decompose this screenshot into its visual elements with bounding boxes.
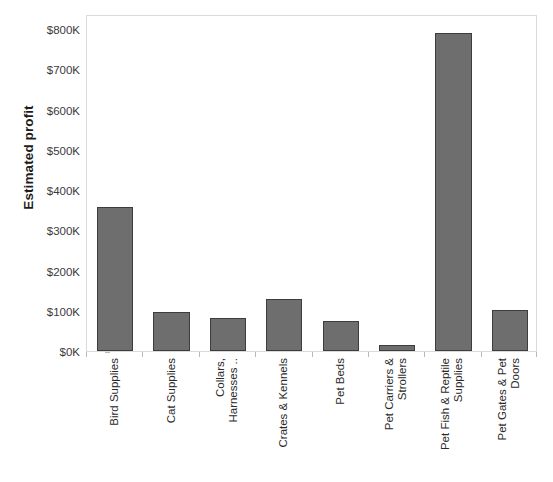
x-axis-tick-label: Cat Supplies <box>164 358 177 423</box>
y-axis-tick-label: $200K <box>24 266 80 278</box>
y-axis-tick-label: $400K <box>24 185 80 197</box>
x-axis-tick-label: Pet Carriers &Strollers <box>383 358 409 430</box>
y-axis-tick-label: $0K <box>24 346 80 358</box>
y-axis-tick-label: $100K <box>24 306 80 318</box>
x-axis-tick-label-line: Doors <box>509 358 522 440</box>
x-axis-tick-label-line: Pet Beds <box>333 358 345 405</box>
x-axis-tick-label: Pet Beds <box>333 358 346 405</box>
x-axis-tick-label-line: Pet Carriers & <box>383 358 395 430</box>
x-axis-tick-label: Pet Gates & PetDoors <box>496 358 522 440</box>
y-axis-tick-label: $300K <box>24 225 80 237</box>
x-axis-label-slot: Collars,Harnesses .. <box>199 358 255 482</box>
x-axis-tick-label-line: Bird Supplies <box>108 358 120 426</box>
bar[interactable] <box>323 321 359 351</box>
x-axis-label-slot: Crates & Kennels <box>255 358 311 482</box>
bars-layer <box>87 16 536 351</box>
x-axis-label-slot: Cat Supplies <box>142 358 198 482</box>
x-axis-label-slot: Bird Supplies <box>86 358 142 482</box>
y-axis-tick-label: $600K <box>24 105 80 117</box>
x-axis-tick-mark <box>312 352 313 357</box>
bar-chart: Estimated profit $0K$100K$200K$300K$400K… <box>0 0 553 482</box>
x-axis-label-slot: Pet Beds <box>312 358 368 482</box>
y-axis-tick-label: $800K <box>24 24 80 36</box>
x-axis-tick-label: Bird Supplies <box>108 358 121 426</box>
x-axis-tick-label-line: Collars, <box>214 358 226 397</box>
x-axis-label-slot: Pet Gates & PetDoors <box>481 358 537 482</box>
bar[interactable] <box>210 318 246 351</box>
x-axis-tick-mark <box>481 352 482 357</box>
bar[interactable] <box>153 312 189 351</box>
bar[interactable] <box>266 299 302 351</box>
x-axis-tick-label: Crates & Kennels <box>277 358 290 448</box>
x-axis-tick-label-line: Supplies <box>452 358 465 450</box>
x-axis-label-slot: Pet Carriers &Strollers <box>368 358 424 482</box>
x-axis-tick-mark <box>424 352 425 357</box>
bar[interactable] <box>492 310 528 351</box>
x-axis-tick-label-line: Crates & Kennels <box>277 358 289 448</box>
x-axis-label-slot: Pet Fish & ReptileSupplies <box>424 358 480 482</box>
x-axis-tick-labels: Bird SuppliesCat SuppliesCollars,Harness… <box>86 358 537 482</box>
x-axis-tick-mark <box>86 352 87 357</box>
bar[interactable] <box>379 345 415 351</box>
x-axis-tick-label-line: Pet Fish & Reptile <box>439 358 451 450</box>
x-axis-tick-label: Collars,Harnesses .. <box>214 358 240 423</box>
x-axis-tick-label-line: Harnesses .. <box>227 358 240 423</box>
x-axis-tick-label: Pet Fish & ReptileSupplies <box>439 358 465 450</box>
y-axis-tick-label: $700K <box>24 64 80 76</box>
x-axis-tick-mark <box>536 352 537 357</box>
x-axis-tick-label-line: Cat Supplies <box>164 358 176 423</box>
bar[interactable] <box>97 207 133 351</box>
bar[interactable] <box>435 33 471 351</box>
y-axis-tick-labels: $0K$100K$200K$300K$400K$500K$600K$700K$8… <box>24 15 80 352</box>
x-axis-tick-label-line: Strollers <box>396 358 409 430</box>
plot-area <box>86 15 537 352</box>
y-axis-tick-label: $500K <box>24 145 80 157</box>
x-axis-tick-mark <box>199 352 200 357</box>
x-axis-tick-mark <box>255 352 256 357</box>
x-axis-tick-mark <box>142 352 143 357</box>
x-axis-tick-label-line: Pet Gates & Pet <box>496 358 508 440</box>
x-axis-tick-mark <box>368 352 369 357</box>
